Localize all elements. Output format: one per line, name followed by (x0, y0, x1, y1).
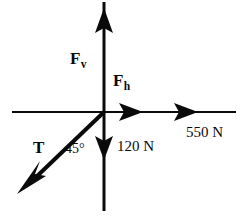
label-force-vertical-subscript: v (81, 58, 87, 71)
label-tension: T (33, 139, 44, 156)
label-force-horizontal: Fh (113, 72, 130, 89)
force-diagram: Fv Fh 550 N 120 N T 45° (0, 0, 246, 219)
label-force-vertical: Fv (70, 50, 86, 67)
label-force-horizontal-subscript: h (124, 80, 130, 93)
label-angle: 45° (65, 142, 85, 156)
label-vertical-magnitude: 120 N (117, 139, 154, 154)
arrowhead-tension (17, 161, 46, 194)
force-diagram-canvas (0, 0, 246, 219)
label-force-horizontal-symbol: F (113, 71, 123, 90)
label-horizontal-magnitude: 550 N (186, 125, 223, 140)
label-force-vertical-symbol: F (70, 49, 80, 68)
